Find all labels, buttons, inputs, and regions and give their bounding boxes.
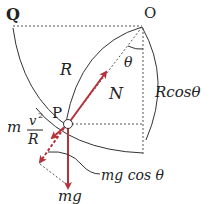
label-Q: Q xyxy=(6,5,20,24)
label-theta: θ xyxy=(124,54,133,70)
label-centripetal-m: m xyxy=(7,118,21,136)
label-Rcos: Rcosθ xyxy=(154,83,200,101)
label-R: R xyxy=(59,60,72,79)
label-centripetal-R: R xyxy=(27,131,39,147)
label-mg: mg xyxy=(58,187,82,204)
projection-line xyxy=(40,164,66,184)
weight-component-arrow xyxy=(40,128,64,162)
label-P: P xyxy=(52,104,62,122)
leader-line xyxy=(48,152,100,174)
normal-force-arrow xyxy=(68,72,106,124)
angle-arc xyxy=(128,46,143,49)
point-P xyxy=(64,120,73,129)
label-centripetal-exp: 2 xyxy=(38,111,43,120)
label-O: O xyxy=(144,4,156,22)
label-N: N xyxy=(108,84,124,103)
physics-diagram: Q O P R θ N Rcosθ m v 2 R mg mg cos θ xyxy=(0,0,218,204)
label-mgcos: mg cos θ xyxy=(101,167,165,183)
label-centripetal-v: v xyxy=(29,113,37,128)
